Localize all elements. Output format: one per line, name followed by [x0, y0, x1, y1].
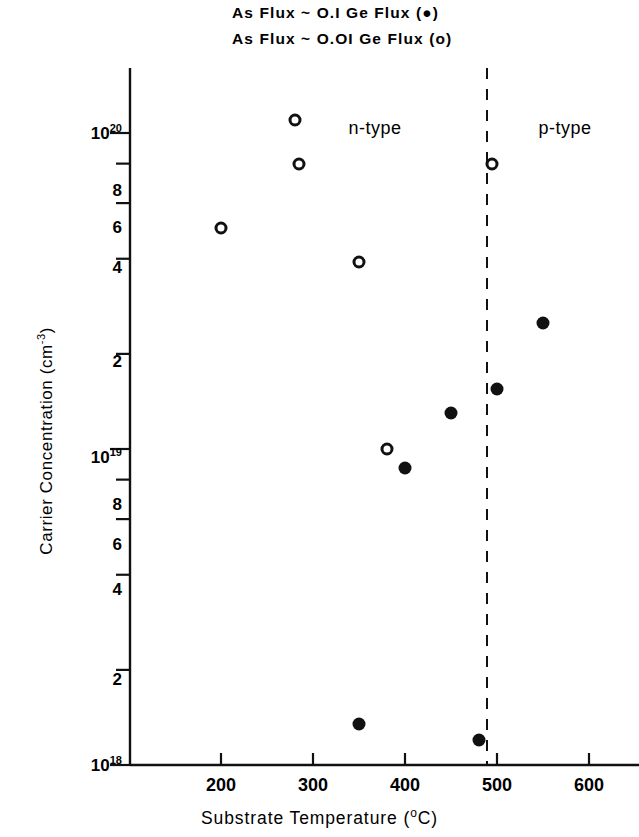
annotation-p-type: p-type: [538, 118, 591, 139]
data-point-open-0-4: [353, 256, 366, 269]
data-point-open-0-2: [288, 113, 301, 126]
data-point-filled-1-1: [399, 462, 412, 475]
ytick-label-2e18: 2: [113, 670, 122, 690]
data-point-open-0-6: [486, 157, 499, 170]
ytick-label-4e18: 4: [113, 580, 122, 600]
data-point-open-0-3: [293, 157, 306, 170]
data-point-filled-1-5: [537, 317, 550, 330]
xtick-label-300: 300: [298, 775, 328, 796]
ytick-label-4e19: 4: [113, 258, 122, 278]
x-axis-title: Substrate Temperature (oC): [0, 806, 639, 829]
xtick-label-600: 600: [574, 775, 604, 796]
ytick-label-1e20: 1020: [91, 122, 122, 144]
data-point-open-0-0: [215, 222, 228, 235]
data-point-open-0-5: [380, 443, 393, 456]
xtick-label-500: 500: [482, 775, 512, 796]
ytick-label-6e19: 6: [113, 218, 122, 238]
y-axis-title: Carrier Concentration (cm-3): [35, 311, 57, 571]
x-tick-marks: [221, 753, 589, 765]
data-point-filled-1-0: [353, 717, 366, 730]
xtick-label-400: 400: [390, 775, 420, 796]
ytick-label-2e19: 2: [113, 352, 122, 372]
ytick-label-1e19: 1019: [91, 446, 122, 468]
ytick-label-8e18: 8: [113, 495, 122, 515]
xtick-label-200: 200: [206, 775, 236, 796]
annotation-n-type: n-type: [348, 118, 401, 139]
data-point-filled-1-2: [445, 406, 458, 419]
ytick-label-6e18: 6: [113, 535, 122, 555]
data-point-filled-1-4: [491, 382, 504, 395]
ytick-label-8e19: 8: [113, 181, 122, 201]
data-point-filled-1-3: [472, 733, 485, 746]
ytick-label-1e18: 1018: [91, 754, 122, 776]
chart-figure: As Flux ~ O.I Ge Flux (●) As Flux ~ O.OI…: [0, 0, 639, 837]
